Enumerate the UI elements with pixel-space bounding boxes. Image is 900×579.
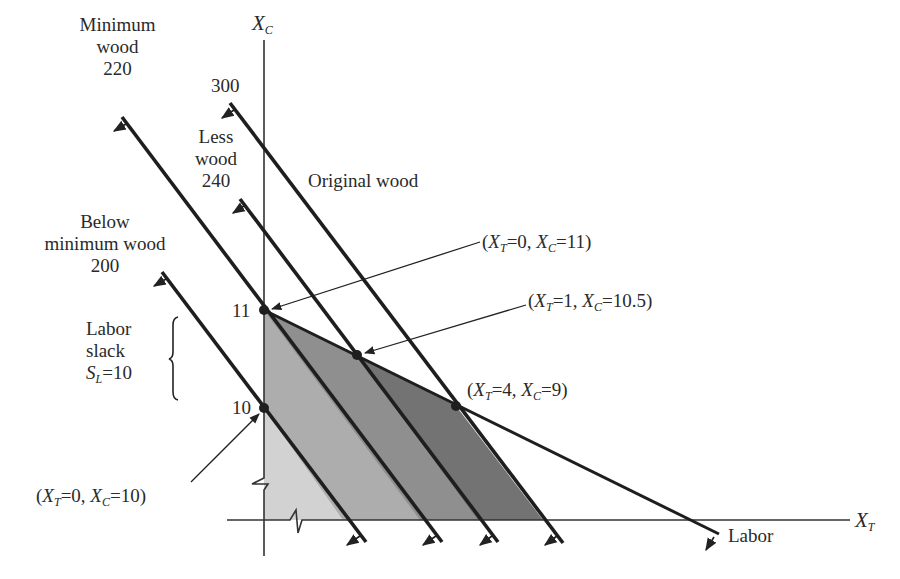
annotation-point-4-9: (XT=4, XC=9)	[467, 379, 568, 407]
vertex-4-9	[451, 401, 461, 411]
callout-0-11	[272, 242, 480, 309]
labor-slack-brace	[169, 317, 178, 400]
callout-0-10	[191, 414, 259, 482]
arrow-wood-240-bottom	[480, 536, 492, 545]
annotation-point-0-11: (XT=0, XC=11)	[482, 231, 591, 259]
x-axis-label: XT	[855, 509, 875, 538]
arrow-wood-200-bottom	[347, 536, 360, 545]
label-minimum-wood: Minimum wood 220	[60, 14, 175, 80]
arrow-wood-220-bottom	[423, 536, 436, 545]
label-wood-300: 300	[211, 75, 240, 97]
arrow-labor-end	[706, 537, 714, 550]
arrow-wood-240-top	[233, 206, 244, 213]
annotation-point-0-10: (XT=0, XC=10)	[36, 485, 146, 513]
label-below-minimum-wood: Below minimum wood 200	[22, 211, 188, 277]
label-labor-slack: Labor slack SL=10	[86, 318, 132, 390]
label-labor: Labor	[728, 525, 773, 547]
vertex-0-10	[259, 403, 269, 413]
y-axis-label: XC	[252, 12, 273, 41]
tick-11: 11	[232, 300, 250, 322]
annotation-point-1-10-5: (XT=1, XC=10.5)	[528, 290, 652, 318]
vertex-1-10-5	[352, 350, 362, 360]
arrow-wood-200-top	[154, 279, 166, 286]
label-less-wood: Less wood 240	[186, 126, 246, 192]
arrow-wood-300-bottom	[545, 536, 557, 545]
arrow-wood-300-top	[222, 110, 234, 118]
label-original-wood: Original wood	[308, 170, 418, 192]
tick-10: 10	[232, 397, 251, 419]
vertex-0-11	[259, 305, 269, 315]
arrow-wood-220-top	[114, 124, 126, 131]
